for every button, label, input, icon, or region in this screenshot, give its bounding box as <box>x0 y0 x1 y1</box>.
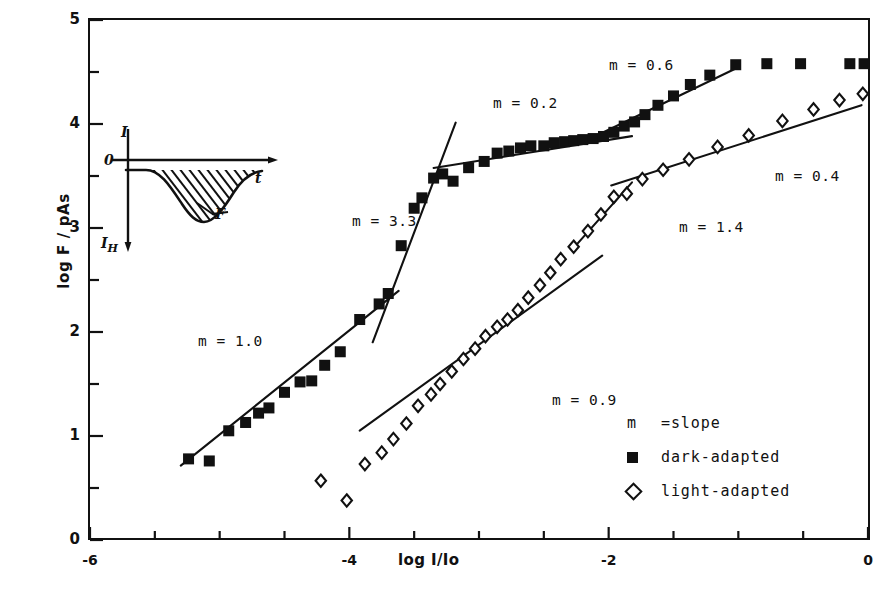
filled-square-icon <box>625 452 661 463</box>
open-diamond-icon <box>625 485 661 498</box>
x-axis-label: log I/Io <box>398 551 460 569</box>
inset-origin-label: 0 <box>104 152 114 168</box>
slope-label-m02: m = 0.2 <box>493 95 558 111</box>
y-tick-2: 2 <box>54 322 80 340</box>
inset-area-label: F <box>215 206 225 222</box>
x-tick-0: 0 <box>851 552 885 568</box>
legend-m-key: m <box>627 414 637 432</box>
slope-label-m33: m = 3.3 <box>352 213 417 229</box>
slope-label-m10: m = 1.0 <box>198 333 263 349</box>
slope-label-m09: m = 0.9 <box>552 392 617 408</box>
y-tick-0: 0 <box>54 530 80 548</box>
legend-row-dark: dark-adapted <box>625 440 790 474</box>
x-tick--2: -2 <box>592 552 626 568</box>
inset-baseline-sub: H <box>108 242 118 255</box>
y-axis-label: log F / pAs <box>55 171 73 311</box>
slope-label-m06: m = 0.6 <box>609 57 674 73</box>
inset-baseline-label: IH <box>101 235 118 255</box>
y-tick-4: 4 <box>54 114 80 132</box>
inset-y-axis-label: I <box>121 124 128 140</box>
x-tick--6: -6 <box>73 552 107 568</box>
legend-row-slope: m =slope <box>625 406 790 440</box>
legend-row-light: light-adapted <box>625 474 790 508</box>
y-tick-5: 5 <box>54 10 80 28</box>
y-tick-3: 3 <box>54 218 80 236</box>
y-tick-1: 1 <box>54 426 80 444</box>
figure-root: log F / pAs log I/Io 012345 -6-4-20 m = … <box>0 0 888 589</box>
inset-t-axis-label: t <box>255 170 261 186</box>
legend: m =slope dark-adapted light-adapted <box>625 406 790 508</box>
legend-dark-label: dark-adapted <box>661 448 780 466</box>
slope-label-m14: m = 1.4 <box>679 219 744 235</box>
x-tick--4: -4 <box>332 552 366 568</box>
slope-label-m04: m = 0.4 <box>775 168 840 184</box>
slope-symbol: m <box>625 414 661 432</box>
legend-slope-label: =slope <box>661 414 721 432</box>
legend-light-label: light-adapted <box>661 482 790 500</box>
